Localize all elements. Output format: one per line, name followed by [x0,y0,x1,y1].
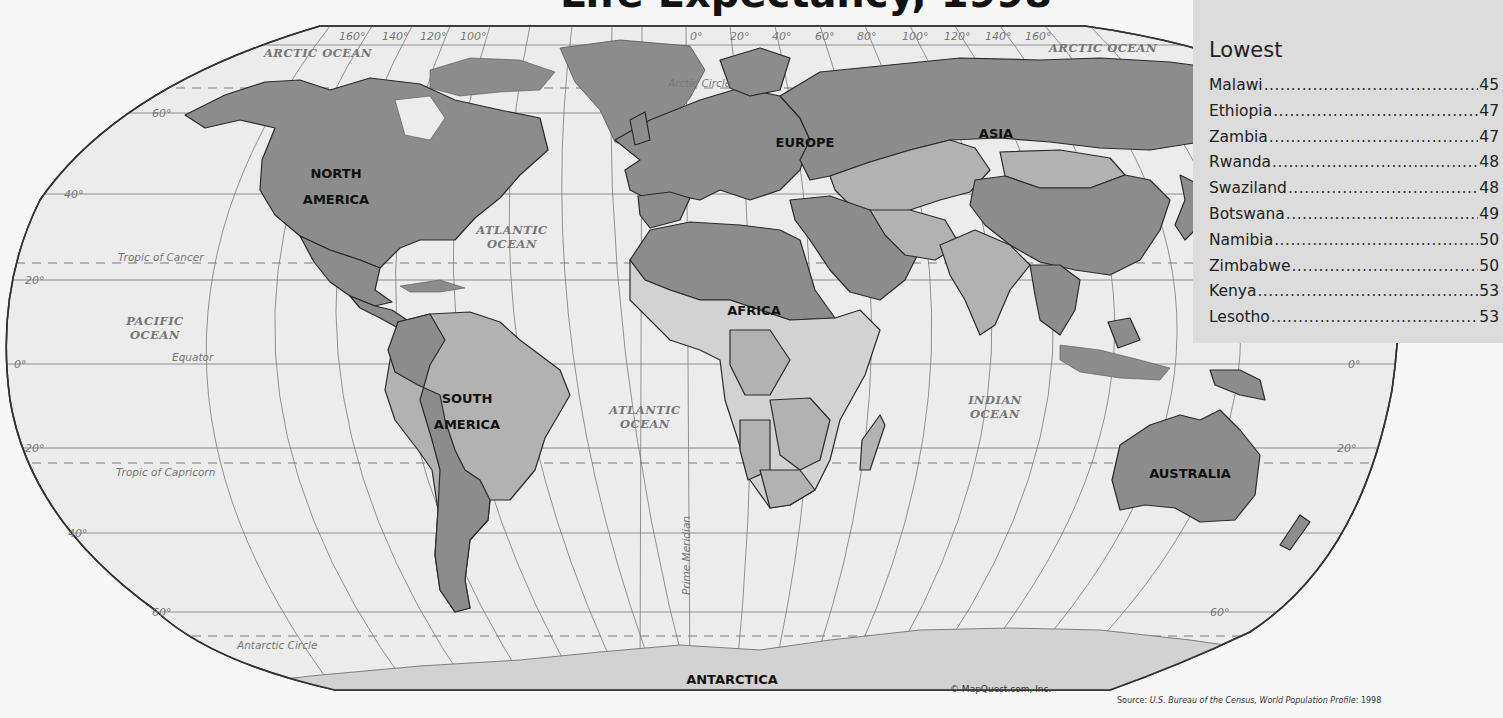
leader-dots [1286,205,1478,223]
latitude-label: 20° [25,274,45,287]
latitude-label: 60° [152,606,172,619]
continent-label-europe: EUROPE [776,135,835,150]
life-expectancy-value: 48 [1479,153,1499,171]
map-figure: Life Expectancy, 1998 [0,0,1503,718]
leader-dots [1264,76,1479,94]
latitude-label: 0° [1348,358,1361,371]
continent-label-australia: AUSTRALIA [1149,466,1231,481]
legend-item: Zambia47 [1209,128,1499,154]
legend-item: Swaziland48 [1209,179,1499,205]
continent-label-antarctica: ANTARCTICA [686,672,778,687]
life-expectancy-value: 53 [1479,308,1499,326]
ocean-label: PACIFICOCEAN [125,314,184,342]
longitude-label: 140° [382,30,409,43]
longitude-label: 140° [985,30,1012,43]
latitude-label: 20° [25,442,45,455]
country-name: Namibia [1209,231,1273,249]
longitude-label: 100° [902,30,929,43]
latitude-label: 0° [14,358,27,371]
ocean-label: ARCTIC OCEAN [263,46,372,60]
leader-dots [1272,153,1478,171]
legend-item: Malawi45 [1209,76,1499,102]
prime-meridian-label: Prime Meridian [680,516,692,595]
latitude-label: 60° [1210,606,1230,619]
legend-item: Zimbabwe50 [1209,257,1499,283]
life-expectancy-value: 49 [1479,205,1499,223]
longitude-label: 20° [730,30,750,43]
leader-dots [1288,179,1478,197]
antarctic-circle-label: Antarctic Circle [236,639,317,651]
longitude-label: 0° [690,30,703,43]
life-expectancy-value: 50 [1479,257,1499,275]
country-name: Ethiopia [1209,102,1272,120]
equator-label: Equator [172,351,214,363]
continent-label-asia: ASIA [979,126,1013,141]
ocean-label: INDIANOCEAN [967,393,1022,421]
country-name: Malawi [1209,76,1263,94]
country-name: Rwanda [1209,153,1271,171]
legend-item: Ethiopia47 [1209,102,1499,128]
legend-list: Malawi45Ethiopia47Zambia47Rwanda48Swazil… [1209,76,1499,334]
latitude-label: 20° [1337,442,1357,455]
legend-heading: Lowest [1209,38,1282,62]
tropic-of-cancer-label: Tropic of Cancer [118,251,204,263]
leader-dots [1271,308,1478,326]
legend-item: Rwanda48 [1209,153,1499,179]
country-name: Swaziland [1209,179,1287,197]
latitude-label: 40° [68,527,88,540]
country-name: Botswana [1209,205,1285,223]
latitude-label: 40° [64,188,84,201]
longitude-label: 160° [339,30,366,43]
country-name: Zambia [1209,128,1268,146]
leader-dots [1269,128,1478,146]
legend-item: Lesotho53 [1209,308,1499,334]
leader-dots [1257,282,1478,300]
life-expectancy-value: 53 [1479,282,1499,300]
leader-dots [1274,231,1478,249]
arctic-circle-label: Arctic Circle [667,77,731,89]
life-expectancy-value: 48 [1479,179,1499,197]
ocean-label: ARCTIC OCEAN [1048,41,1157,55]
longitude-label: 120° [420,30,447,43]
latitude-label: 60° [152,107,172,120]
longitude-label: 100° [460,30,487,43]
legend-lowest: Lowest Malawi45Ethiopia47Zambia47Rwanda4… [1193,0,1503,343]
longitude-label: 160° [1025,30,1052,43]
source-note: Source: U.S. Bureau of the Census, World… [1117,696,1381,705]
longitude-label: 60° [815,30,835,43]
legend-item: Kenya53 [1209,282,1499,308]
country-name: Lesotho [1209,308,1270,326]
legend-item: Botswana49 [1209,205,1499,231]
continent-label-africa: AFRICA [727,303,780,318]
life-expectancy-value: 47 [1479,102,1499,120]
life-expectancy-value: 50 [1479,231,1499,249]
tropic-of-capricorn-label: Tropic of Capricorn [116,466,215,478]
legend-item: Namibia50 [1209,231,1499,257]
copyright-label: © MapQuest.com, Inc. [950,684,1051,694]
longitude-label: 120° [944,30,971,43]
life-expectancy-value: 47 [1479,128,1499,146]
leader-dots [1273,102,1478,120]
country-name: Kenya [1209,282,1256,300]
country-name: Zimbabwe [1209,257,1290,275]
longitude-label: 40° [772,30,792,43]
longitude-label: 80° [857,30,877,43]
leader-dots [1291,257,1478,275]
life-expectancy-value: 45 [1479,76,1499,94]
